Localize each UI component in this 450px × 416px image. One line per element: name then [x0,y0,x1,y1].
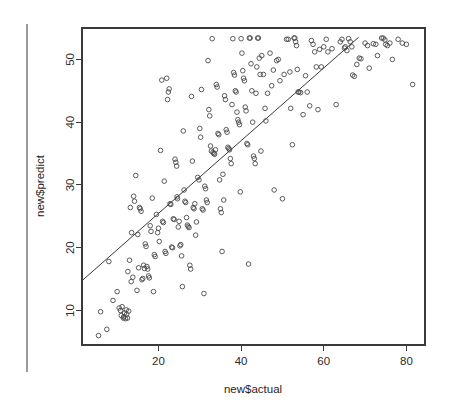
data-point [255,65,260,70]
data-point [132,199,137,204]
data-point [136,265,141,270]
data-point [326,50,331,55]
data-point [194,220,199,225]
data-point [271,68,276,73]
y-tick-label: 10 [64,304,76,317]
data-point [396,37,401,42]
data-point [190,159,195,164]
data-point [404,42,409,47]
data-point [221,172,226,177]
data-point [314,65,319,70]
data-point [375,53,380,58]
data-point [220,249,225,254]
data-point [158,148,163,153]
x-axis-title: new$actual [224,383,282,395]
data-point [129,279,134,284]
data-point [157,239,162,244]
data-point [355,62,360,67]
data-point [249,61,254,66]
data-point [179,254,184,259]
data-point [301,112,306,117]
data-point [135,288,140,293]
data-point [159,78,164,83]
data-point [150,196,155,201]
data-point [280,196,285,201]
data-point [330,46,335,51]
data-point [305,90,310,95]
data-point [240,51,245,56]
x-tick-label: 80 [400,355,413,367]
data-point [197,126,202,131]
data-point [265,91,270,96]
data-point [115,289,120,294]
y-tick-label: 30 [64,179,76,192]
x-tick-label: 20 [152,355,165,367]
data-point [129,230,134,235]
data-point [410,82,415,87]
data-point [111,298,116,303]
regression-line-layer [82,37,358,280]
data-point [390,57,395,62]
data-points-layer [96,36,415,338]
data-point [307,104,312,109]
data-point [165,97,170,102]
data-point [207,114,212,119]
data-point [180,284,185,289]
data-point [290,142,295,147]
data-point [131,194,136,199]
data-point [127,258,132,263]
data-point [177,219,182,224]
data-point [263,106,268,111]
plot-canvas: 20406080 1020304050 new$actual new$predi… [0,0,450,416]
data-point [367,66,372,71]
data-point [133,173,138,178]
data-point [278,78,283,83]
scatter-plot-figure: 20406080 1020304050 new$actual new$predi… [0,0,450,416]
y-axis-title: new$predict [34,154,46,217]
data-point [295,67,300,72]
data-point [229,161,234,166]
data-point [98,309,103,314]
y-tick-label: 20 [64,241,76,254]
regression-fit-line [82,37,358,280]
data-point [156,226,161,231]
data-point [208,144,213,149]
data-point [217,178,222,183]
data-point [312,50,317,55]
data-point [207,107,212,112]
data-point [131,275,136,280]
data-point [240,68,245,73]
data-point [166,90,171,95]
data-point [206,58,211,63]
data-point [155,230,160,235]
data-point [198,135,203,140]
data-point [246,262,251,267]
data-point [128,205,133,210]
data-point [268,51,273,56]
data-point [181,129,186,134]
x-axis-ticks: 20406080 [152,345,413,367]
y-tick-label: 40 [64,116,76,129]
data-point [149,229,154,234]
data-point [148,223,153,228]
data-point [193,233,198,238]
data-point [173,157,178,162]
data-point [254,91,259,96]
data-point [164,76,169,81]
data-point [162,179,167,184]
data-point [105,327,110,332]
data-point [250,120,255,125]
y-tick-label: 50 [64,53,76,66]
data-point [107,259,112,264]
data-point [126,269,131,274]
data-point [324,37,329,42]
data-point [316,107,321,112]
data-point [321,45,326,50]
data-point [210,36,215,41]
data-point [189,94,194,99]
data-point [288,70,293,75]
data-point [239,36,244,41]
data-point [199,87,204,92]
data-point [151,289,156,294]
data-point [269,83,274,88]
